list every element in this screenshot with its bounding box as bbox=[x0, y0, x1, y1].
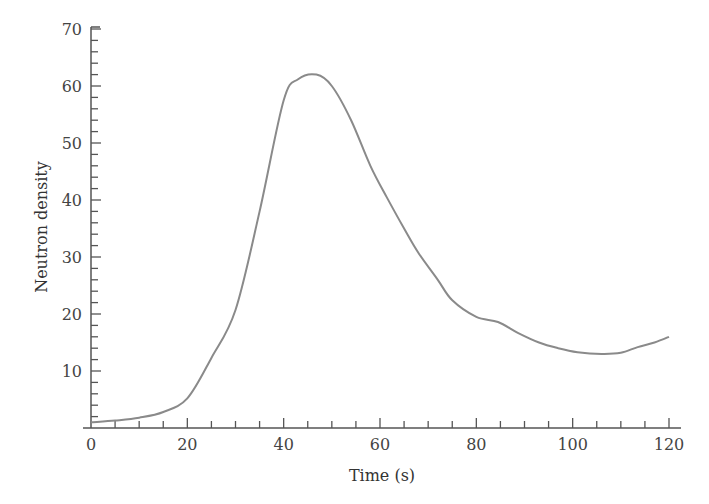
y-tick-label: 40 bbox=[62, 191, 82, 210]
x-tick-label: 100 bbox=[557, 435, 588, 454]
x-tick-label: 120 bbox=[654, 435, 685, 454]
y-tick-label: 60 bbox=[62, 77, 82, 96]
neutron-density-curve bbox=[91, 74, 669, 422]
y-tick-label: 10 bbox=[62, 362, 82, 381]
x-tick-label: 20 bbox=[177, 435, 197, 454]
x-tick-label: 80 bbox=[466, 435, 486, 454]
tick-labels: 02040608010012010203040506070 bbox=[62, 20, 685, 454]
y-tick-label: 20 bbox=[62, 305, 82, 324]
x-tick-label: 0 bbox=[86, 435, 96, 454]
x-tick-label: 40 bbox=[273, 435, 293, 454]
x-axis-title: Time (s) bbox=[349, 466, 415, 485]
y-tick-label: 70 bbox=[62, 20, 82, 39]
y-axis-title: Neutron density bbox=[32, 161, 51, 293]
line-chart: 02040608010012010203040506070 Time (s) N… bbox=[0, 0, 709, 504]
axes bbox=[83, 27, 681, 428]
y-tick-label: 30 bbox=[62, 248, 82, 267]
y-tick-label: 50 bbox=[62, 134, 82, 153]
x-tick-label: 60 bbox=[370, 435, 390, 454]
tick-marks bbox=[91, 29, 669, 428]
